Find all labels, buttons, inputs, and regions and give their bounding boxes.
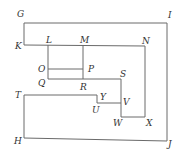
diagram-canvas: GIKLMNOPQRSTYUVWXHJ: [0, 0, 185, 160]
label-M: M: [79, 35, 90, 45]
label-P: P: [87, 64, 95, 74]
label-I: I: [167, 10, 172, 20]
label-T: T: [15, 90, 22, 100]
label-Y: Y: [100, 92, 107, 102]
label-V: V: [123, 97, 131, 107]
label-J: J: [166, 139, 173, 149]
label-U: U: [92, 105, 100, 115]
label-R: R: [79, 82, 87, 92]
label-W: W: [113, 118, 123, 128]
label-S: S: [120, 69, 126, 79]
label-X: X: [145, 118, 153, 128]
label-O: O: [38, 64, 46, 74]
label-Q: Q: [38, 78, 46, 88]
label-N: N: [141, 36, 151, 46]
label-H: H: [13, 136, 22, 146]
label-L: L: [45, 35, 52, 45]
label-G: G: [17, 9, 24, 19]
label-K: K: [14, 41, 23, 51]
